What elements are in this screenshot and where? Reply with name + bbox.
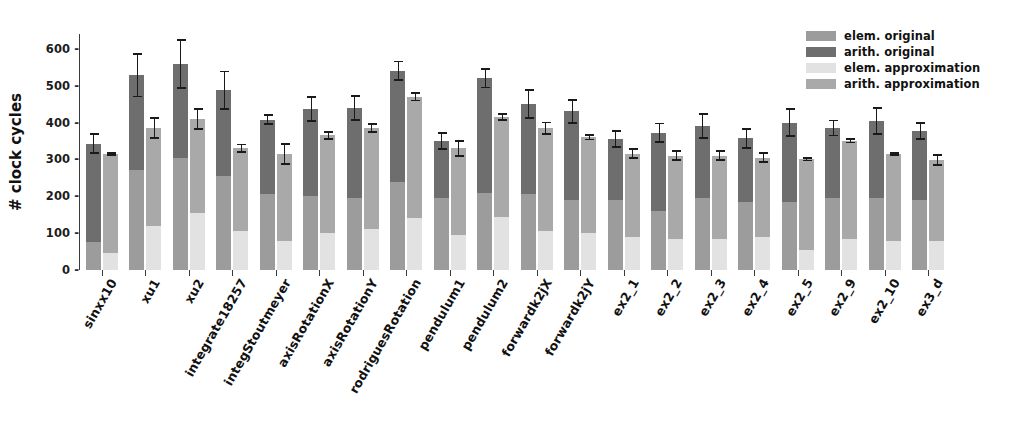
bar-group (608, 34, 640, 270)
x-tick-mark (189, 270, 190, 276)
legend-item[interactable]: arith. approximation (806, 77, 980, 90)
legend-item[interactable]: arith. original (806, 45, 980, 58)
error-bar (398, 62, 399, 80)
bar-original[interactable] (869, 121, 884, 270)
bar-approximation[interactable] (407, 97, 422, 270)
bar-segment-elem-approximation (494, 217, 509, 270)
x-tick-mark (754, 270, 755, 276)
bar-original[interactable] (390, 71, 405, 270)
bar-original[interactable] (651, 133, 666, 270)
bar-segment-elem-original (347, 198, 362, 270)
bar-group (434, 34, 466, 270)
bar-segment-elem-original (521, 194, 536, 270)
legend-item[interactable]: elem. approximation (806, 61, 980, 74)
error-bar (746, 129, 747, 147)
bar-original[interactable] (86, 144, 101, 270)
bar-segment-elem-original (738, 202, 753, 270)
bar-group (216, 34, 248, 270)
bar-original[interactable] (477, 78, 492, 270)
bar-segment-elem-approximation (712, 239, 727, 270)
error-bar (154, 118, 155, 138)
y-tick-dash-icon: - (74, 263, 79, 277)
bar-approximation[interactable] (103, 154, 118, 270)
bar-approximation[interactable] (451, 148, 466, 270)
bar-approximation[interactable] (842, 141, 857, 270)
x-tick-label-xu2: xu2 (181, 276, 207, 306)
bar-approximation[interactable] (625, 154, 640, 270)
x-tick-label-ex2_1: ex2_1 (608, 276, 641, 319)
error-bar (676, 151, 677, 160)
bar-approximation[interactable] (277, 154, 292, 270)
error-bar (702, 114, 703, 138)
bar-segment-arith-approximation (712, 156, 727, 239)
bar-group (260, 34, 292, 270)
bar-segment-arith-original (477, 78, 492, 192)
bar-original[interactable] (129, 75, 144, 270)
x-tick-mark (928, 270, 929, 276)
bar-original[interactable] (608, 139, 623, 270)
bar-segment-elem-approximation (233, 231, 248, 270)
y-tick-200: 200- (46, 189, 79, 203)
bar-segment-elem-approximation (190, 213, 205, 270)
bar-approximation[interactable] (538, 128, 553, 270)
error-bar (632, 149, 633, 158)
bar-original[interactable] (216, 90, 231, 270)
bar-original[interactable] (738, 138, 753, 270)
bar-original[interactable] (564, 111, 579, 270)
bar-segment-elem-original (129, 170, 144, 270)
bar-segment-elem-approximation (842, 239, 857, 270)
x-tick-mark (363, 270, 364, 276)
bar-segment-elem-original (912, 200, 927, 270)
bar-approximation[interactable] (668, 156, 683, 270)
x-tick-mark (537, 270, 538, 276)
bar-approximation[interactable] (799, 159, 814, 270)
bar-group (477, 34, 509, 270)
bar-group (390, 34, 422, 270)
bar-original[interactable] (260, 120, 275, 270)
bar-original[interactable] (434, 141, 449, 270)
x-tick-mark (450, 270, 451, 276)
bar-approximation[interactable] (494, 117, 509, 270)
x-tick-mark (102, 270, 103, 276)
error-bar (719, 151, 720, 160)
bar-segment-arith-original (651, 133, 666, 211)
bar-original[interactable] (173, 64, 188, 270)
error-bar (659, 124, 660, 142)
bar-approximation[interactable] (581, 137, 596, 270)
legend-label: elem. original (844, 29, 935, 43)
bar-segment-arith-approximation (277, 154, 292, 241)
bar-original[interactable] (521, 104, 536, 270)
bar-approximation[interactable] (364, 128, 379, 270)
error-bar (110, 153, 111, 155)
bar-approximation[interactable] (755, 158, 770, 270)
bar-approximation[interactable] (190, 119, 205, 270)
bar-approximation[interactable] (320, 135, 335, 270)
bar-segment-arith-approximation (494, 117, 509, 217)
bar-original[interactable] (825, 128, 840, 270)
bar-group (173, 34, 205, 270)
bar-approximation[interactable] (233, 148, 248, 270)
error-bar (920, 123, 921, 139)
bar-approximation[interactable] (929, 160, 944, 270)
error-bar (589, 135, 590, 139)
x-tick-mark (667, 270, 668, 276)
bar-original[interactable] (303, 109, 318, 270)
bar-segment-elem-original (825, 198, 840, 270)
bar-approximation[interactable] (712, 156, 727, 270)
bar-group (738, 34, 770, 270)
y-tick-100: 100- (46, 226, 79, 240)
bar-approximation[interactable] (886, 154, 901, 270)
bar-segment-elem-original (695, 198, 710, 270)
error-bar (615, 131, 616, 147)
y-tick-label: 100 (46, 226, 70, 240)
error-bar (197, 109, 198, 129)
bar-approximation[interactable] (146, 128, 161, 270)
bar-original[interactable] (912, 131, 927, 270)
bar-group (564, 34, 596, 270)
y-tick-300: 300- (46, 152, 79, 166)
bar-original[interactable] (782, 123, 797, 271)
bar-original[interactable] (347, 108, 362, 270)
x-tick-label-ex2_5: ex2_5 (782, 276, 815, 319)
legend-item[interactable]: elem. original (806, 29, 980, 42)
bar-original[interactable] (695, 126, 710, 270)
